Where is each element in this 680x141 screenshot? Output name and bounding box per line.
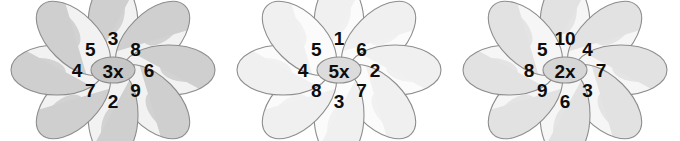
flower-3: 1047369852x	[452, 0, 678, 141]
petal-highlight	[14, 58, 66, 88]
petal-value-top-right: 6	[356, 39, 367, 60]
petal-value-bottom-right: 3	[582, 80, 593, 101]
hub-multiplier-label: 2x	[554, 61, 576, 82]
petal-highlight	[240, 58, 292, 88]
hub-multiplier-label: 5x	[328, 61, 350, 82]
petal-value-right: 2	[370, 60, 381, 81]
petal-value-top: 10	[554, 28, 575, 49]
petal-highlight	[160, 52, 212, 82]
petal-value-top-right: 4	[582, 39, 593, 60]
petal-value-bottom-left: 7	[85, 80, 96, 101]
hub-multiplier-label: 3x	[102, 61, 124, 82]
petal-value-bottom-left: 9	[537, 80, 548, 101]
petal-value-bottom: 6	[560, 91, 571, 112]
petal-value-left: 8	[524, 60, 535, 81]
petal-value-bottom-right: 7	[356, 80, 367, 101]
petal-value-top-left: 5	[85, 39, 96, 60]
petal-value-bottom: 3	[334, 91, 345, 112]
petal-value-bottom-right: 9	[130, 80, 141, 101]
petal-value-bottom-left: 8	[311, 80, 322, 101]
petal-value-top-right: 8	[130, 39, 141, 60]
petal-value-top: 3	[108, 28, 119, 49]
petal-highlight	[466, 58, 518, 88]
petal-value-top-left: 5	[311, 39, 322, 60]
petal-value-left: 4	[298, 60, 309, 81]
flower-1: 386927453x	[0, 0, 226, 141]
petal-value-bottom: 2	[108, 91, 119, 112]
multiplication-flowers-worksheet: 386927453x162738455x1047369852x	[0, 0, 680, 141]
petal-value-left: 4	[72, 60, 83, 81]
flower-2: 162738455x	[226, 0, 452, 141]
petal-value-right: 7	[596, 60, 607, 81]
petal-value-right: 6	[144, 60, 155, 81]
petal-highlight	[612, 52, 664, 82]
petal-value-top: 1	[334, 28, 345, 49]
petal-value-top-left: 5	[537, 39, 548, 60]
petal-highlight	[386, 52, 438, 82]
